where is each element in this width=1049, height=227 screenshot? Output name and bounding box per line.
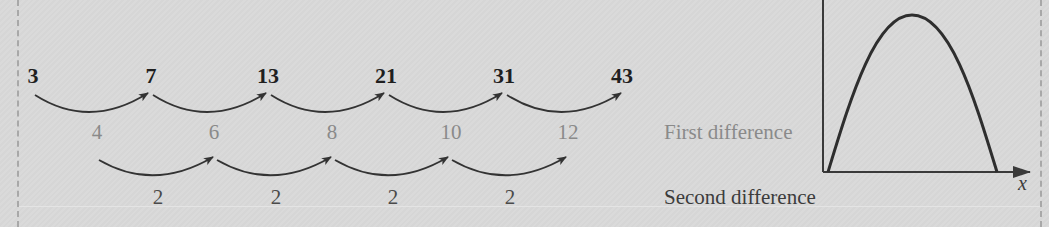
first-difference-5: 12 — [558, 120, 579, 145]
arrow-4-to-6 — [99, 157, 213, 175]
term-1: 3 — [28, 63, 39, 89]
first-difference-label: First difference — [664, 120, 792, 145]
first-difference-1: 4 — [92, 120, 103, 145]
term-3: 13 — [257, 63, 279, 89]
arrow-31-to-43 — [507, 93, 621, 112]
parabola-curve — [828, 15, 997, 172]
term-6: 43 — [611, 63, 633, 89]
term-2: 7 — [146, 63, 157, 89]
arrow-3-to-7 — [35, 93, 148, 112]
second-difference-arrows — [99, 157, 566, 175]
arrow-6-to-8 — [217, 157, 331, 175]
arrow-7-to-13 — [153, 93, 266, 112]
second-difference-3: 2 — [388, 185, 399, 210]
term-5: 31 — [493, 63, 515, 89]
first-difference-arrows — [35, 93, 621, 112]
first-difference-3: 8 — [327, 120, 338, 145]
second-difference-2: 2 — [271, 185, 282, 210]
second-difference-4: 2 — [505, 185, 516, 210]
first-difference-2: 6 — [209, 120, 220, 145]
second-difference-label: Second difference — [664, 185, 816, 210]
second-difference-1: 2 — [153, 185, 164, 210]
arrow-8-to-10 — [335, 157, 448, 175]
x-axis-label: x — [1018, 172, 1027, 195]
arrow-10-to-12 — [452, 157, 566, 175]
term-4: 21 — [375, 63, 397, 89]
graph — [823, 0, 1030, 172]
arrow-21-to-31 — [389, 93, 502, 112]
first-difference-4: 10 — [441, 120, 462, 145]
arrow-13-to-21 — [271, 93, 384, 112]
